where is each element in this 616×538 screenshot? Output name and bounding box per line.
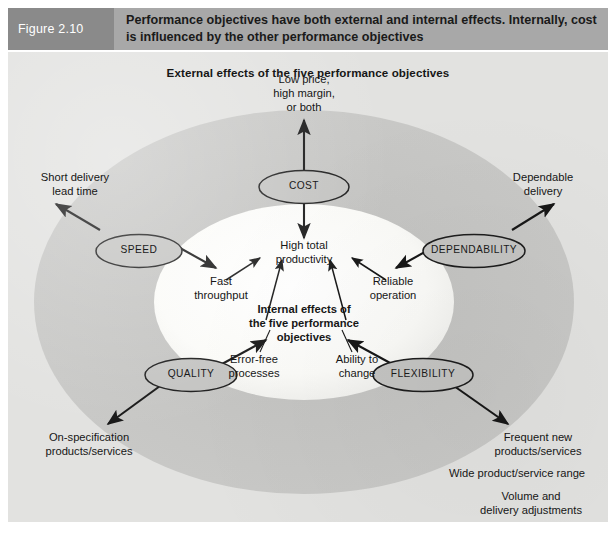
figure-number-label: Figure 2.10: [18, 22, 83, 36]
center-caption: Internal effects of the five performance…: [214, 302, 394, 344]
node-label-flexibility[interactable]: FLEXIBILITY: [353, 368, 493, 379]
internal-effect-speed: Fast throughput: [176, 274, 266, 302]
node-label-cost[interactable]: COST: [254, 180, 354, 191]
node-label-speed[interactable]: SPEED: [89, 244, 189, 255]
figure-title-block: Performance objectives have both externa…: [114, 8, 608, 50]
internal-effect-dependability: Reliable operation: [346, 274, 440, 302]
diagram-canvas: External effects of the five performance…: [8, 52, 608, 522]
figure-container: Figure 2.10 Performance objectives have …: [0, 0, 616, 538]
center-label-productivity: High total productivity: [244, 238, 364, 266]
node-label-quality[interactable]: QUALITY: [141, 368, 241, 379]
figure-title: Performance objectives have both externa…: [126, 12, 600, 46]
external-effect-flexibility-1: Frequent new products/services: [468, 430, 608, 458]
external-effect-flexibility-2: Wide product/service range: [426, 466, 608, 480]
external-effect-dependability: Dependable delivery: [480, 170, 606, 198]
figure-number-block: Figure 2.10: [8, 8, 114, 50]
external-effect-cost: Low price, high margin, or both: [234, 72, 374, 114]
external-effect-flexibility-3: Volume and delivery adjustments: [454, 489, 608, 517]
figure-header: Figure 2.10 Performance objectives have …: [8, 8, 608, 50]
node-label-dependability[interactable]: DEPENDABILITY: [404, 244, 544, 255]
external-effect-quality: On-specification products/services: [14, 430, 164, 458]
external-effect-speed: Short delivery lead time: [10, 170, 140, 198]
